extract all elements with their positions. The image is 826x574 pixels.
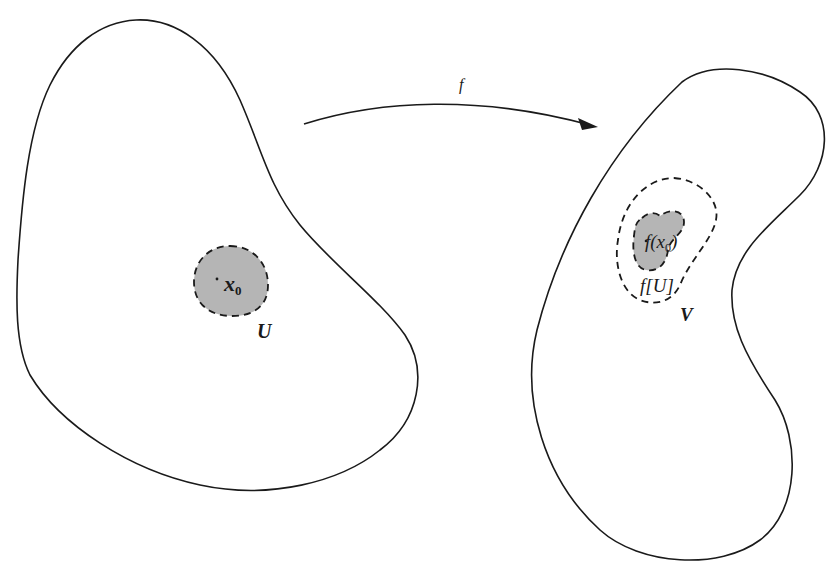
right-codomain-outline [532, 69, 825, 560]
label-fx0: f(x0) [645, 231, 677, 255]
label-U: U [257, 320, 273, 342]
arrowhead-icon [578, 118, 598, 130]
point-x0 [216, 278, 219, 281]
label-V: V [680, 304, 694, 325]
diagram-canvas: f x0 U f(x0) f[U] V [0, 0, 826, 574]
label-fU: f[U] [640, 275, 674, 296]
mapping-arrow [304, 104, 590, 125]
arrow-label-f: f [459, 76, 466, 94]
